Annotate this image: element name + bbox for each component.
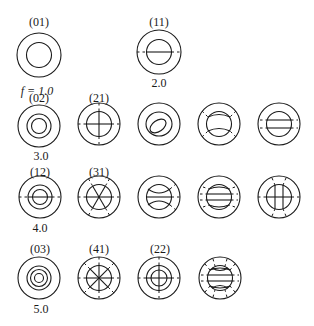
mode-r1c2-pattern bbox=[138, 103, 180, 145]
mode-label-01: (01) bbox=[29, 15, 49, 29]
mode-r3c3-pattern bbox=[199, 257, 241, 299]
mode-label-02: (02) bbox=[29, 91, 49, 105]
mode-21-pattern bbox=[78, 103, 120, 145]
mode-label-11: (11) bbox=[149, 15, 169, 29]
mode-label-41: (41) bbox=[89, 242, 109, 256]
mode-01-pattern bbox=[17, 33, 61, 77]
freq-label-3: 3.0 bbox=[34, 149, 49, 163]
mode-31-pattern bbox=[78, 176, 120, 218]
mode-11-pattern bbox=[137, 30, 181, 74]
mode-22-pattern bbox=[138, 257, 180, 299]
mode-r2c4-pattern bbox=[258, 176, 300, 218]
mode-12-pattern bbox=[19, 176, 61, 218]
mode-r1c3-pattern bbox=[198, 103, 240, 145]
mode-label-22: (22) bbox=[150, 242, 170, 256]
mode-02-pattern bbox=[18, 105, 60, 147]
mode-r2c2-pattern bbox=[138, 176, 180, 218]
freq-label-4: 4.0 bbox=[33, 221, 48, 235]
mode-label-03: (03) bbox=[30, 242, 50, 256]
mode-41-pattern bbox=[78, 257, 120, 299]
mode-03-pattern bbox=[18, 257, 60, 299]
mode-pattern-diagram: (01) f = 1.0 (11) 2.0 (02) 3.0 (21) bbox=[0, 0, 314, 326]
freq-label-5: 5.0 bbox=[34, 302, 49, 316]
mode-r2c3-pattern bbox=[198, 176, 240, 218]
mode-r1c4-pattern bbox=[258, 103, 300, 145]
freq-label-2: 2.0 bbox=[152, 76, 167, 90]
